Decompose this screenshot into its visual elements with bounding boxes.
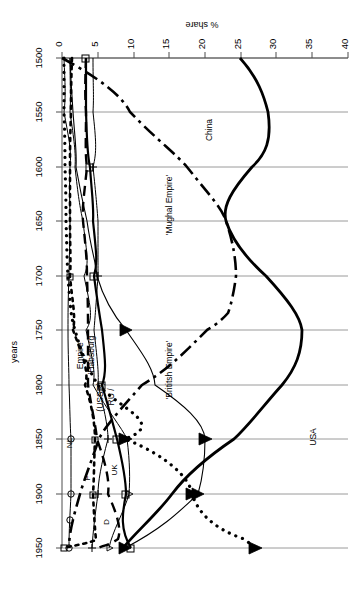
- y-tick-label: 30: [267, 39, 278, 50]
- series-label-habsburg-line1: 'Habsburg: [86, 335, 96, 374]
- series-label-f: F: [83, 475, 92, 480]
- x-tick-label: 1750: [33, 319, 44, 340]
- y-axis-title: % share: [185, 20, 218, 30]
- series-label-usa: USA: [308, 428, 318, 446]
- series-label-nl: NL: [65, 437, 74, 448]
- y-tick-label: 35: [303, 39, 314, 50]
- series-label-china: China: [204, 119, 214, 141]
- series-label-british-empire: 'Brititsh Empire': [164, 340, 174, 399]
- x-tick-label: 1900: [33, 483, 44, 504]
- y-tick-label: 0: [53, 41, 64, 46]
- series-label-ru-ussr-line1: RU /: [106, 388, 116, 406]
- series-label-ru-ussr-line2: (USSR): [95, 382, 105, 411]
- y-tick-label: 10: [125, 39, 136, 50]
- x-tick-label: 1950: [33, 537, 44, 558]
- y-tick-label: 5: [89, 41, 100, 46]
- y-tick-label: 20: [196, 39, 207, 50]
- chart-page: 0 5 10 15 20 25 30 35 40 % share 1500 15…: [0, 0, 362, 604]
- series-label-uk: UK: [110, 464, 119, 476]
- chart-background: [0, 0, 362, 604]
- x-tick-label: 1800: [33, 374, 44, 395]
- series-label-d: D: [102, 519, 111, 525]
- x-tick-label: 1850: [33, 428, 44, 449]
- x-axis-title: years: [9, 341, 19, 364]
- x-tick-label: 1500: [33, 47, 44, 68]
- y-tick-label: 25: [232, 39, 243, 50]
- series-label-habsburg-line2: Empire': [75, 340, 85, 369]
- line-chart-svg: 0 5 10 15 20 25 30 35 40 % share 1500 15…: [0, 0, 362, 604]
- x-tick-label: 1550: [33, 101, 44, 122]
- series-label-mughal-1: 'Mughal Empire': [164, 174, 174, 235]
- x-tick-label: 1650: [33, 210, 44, 231]
- y-tick-label: 15: [160, 39, 171, 50]
- chart-figure: 0 5 10 15 20 25 30 35 40 % share 1500 15…: [0, 0, 362, 604]
- x-tick-label: 1600: [33, 156, 44, 177]
- y-tick-label: 40: [339, 39, 350, 50]
- x-tick-label: 1700: [33, 265, 44, 286]
